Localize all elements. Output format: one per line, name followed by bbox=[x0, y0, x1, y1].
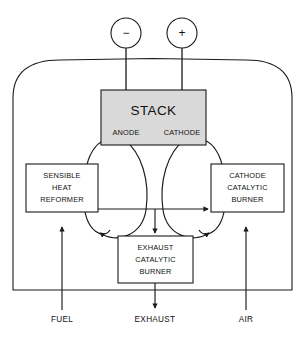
sensible-heat-reformer-line-3: REFORMER bbox=[40, 195, 84, 204]
air-stream-label: AIR bbox=[239, 315, 254, 324]
cathode-label: CATHODE bbox=[164, 128, 201, 137]
cathode-catalytic-burner-line-2: CATALYTIC bbox=[227, 183, 268, 192]
cathode-catalytic-burner-line-3: BURNER bbox=[231, 195, 263, 204]
stack-title: STACK bbox=[130, 103, 176, 118]
cathode-catalytic-burner-line-1: CATHODE bbox=[229, 171, 266, 180]
anode-recirculation-arrow bbox=[100, 140, 147, 238]
anode-label: ANODE bbox=[112, 128, 139, 137]
exhaust-catalytic-burner-line-2: CATALYTIC bbox=[135, 255, 176, 264]
fuel-cell-diagram: − + STACK ANODE CATHODE SENSIBLE HEAT RE… bbox=[0, 0, 306, 338]
exhaust-stream-label: EXHAUST bbox=[135, 315, 176, 324]
positive-terminal-symbol: + bbox=[178, 26, 185, 40]
exhaust-catalytic-burner-line-1: EXHAUST bbox=[138, 243, 174, 252]
cathode-recirculation-arrow bbox=[162, 140, 209, 238]
exhaust-catalytic-burner-line-3: BURNER bbox=[139, 267, 171, 276]
fuel-stream-label: FUEL bbox=[51, 315, 73, 324]
sensible-heat-reformer-line-1: SENSIBLE bbox=[43, 171, 80, 180]
sensible-heat-reformer-line-2: HEAT bbox=[52, 183, 72, 192]
negative-terminal-symbol: − bbox=[122, 26, 129, 40]
diagram-canvas: − + STACK ANODE CATHODE SENSIBLE HEAT RE… bbox=[0, 0, 306, 338]
